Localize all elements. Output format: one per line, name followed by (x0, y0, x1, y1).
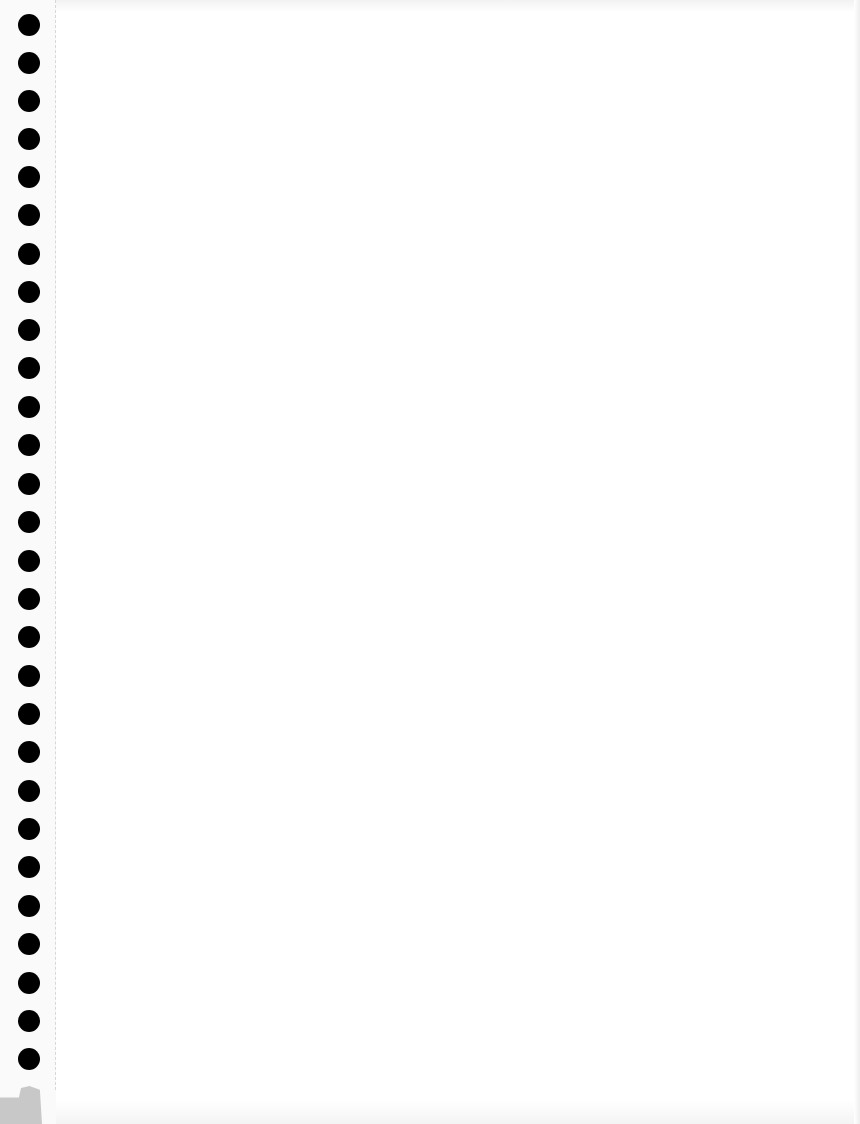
punch-hole-icon (18, 780, 40, 802)
punch-hole-icon (18, 281, 40, 303)
punch-hole-icon (18, 434, 40, 456)
punch-hole-icon (18, 933, 40, 955)
punch-hole-icon (18, 473, 40, 495)
punch-hole-icon (18, 90, 40, 112)
punch-hole-icon (18, 511, 40, 533)
punch-hole-icon (18, 665, 40, 687)
punch-hole-icon (18, 818, 40, 840)
punch-hole-icon (18, 14, 40, 36)
punch-hole-icon (18, 1010, 40, 1032)
punch-hole-icon (18, 52, 40, 74)
page-content (80, 40, 820, 1084)
punch-hole-icon (18, 1048, 40, 1070)
punch-hole-icon (18, 550, 40, 572)
punch-hole-icon (18, 741, 40, 763)
punch-hole-icon (18, 319, 40, 341)
punch-hole-icon (18, 856, 40, 878)
punch-hole-icon (18, 396, 40, 418)
perforation-line (55, 0, 56, 1090)
punch-hole-icon (18, 166, 40, 188)
punch-hole-icon (18, 128, 40, 150)
punch-hole-icon (18, 703, 40, 725)
punch-hole-icon (18, 626, 40, 648)
page-edge-shadow (854, 0, 860, 1124)
punch-hole-icon (18, 357, 40, 379)
punch-hole-icon (18, 895, 40, 917)
paper-sheet (0, 0, 860, 1124)
punch-hole-icon (18, 972, 40, 994)
punch-hole-icon (18, 243, 40, 265)
punch-hole-icon (18, 588, 40, 610)
punch-hole-icon (18, 204, 40, 226)
